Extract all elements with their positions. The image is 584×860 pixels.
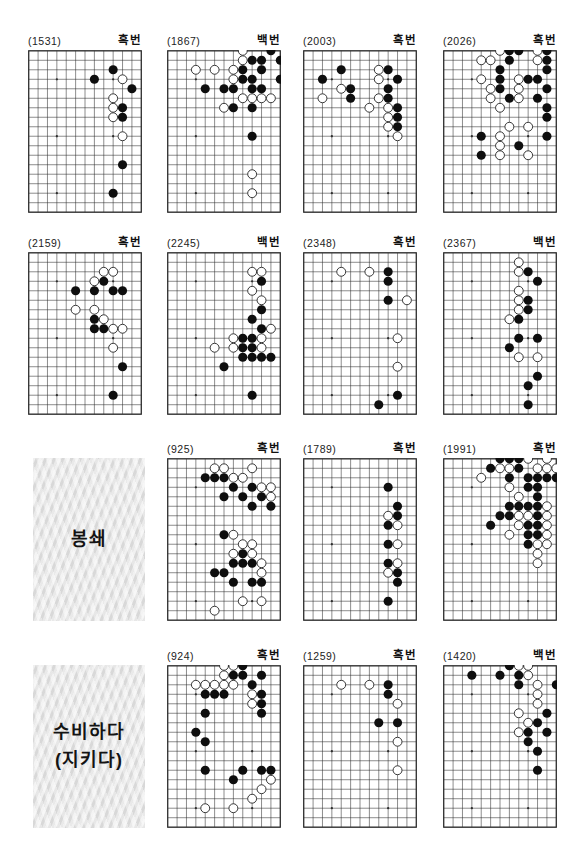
diagram-number: (1531) — [28, 35, 61, 47]
white-stone — [365, 103, 374, 112]
black-stone — [257, 766, 266, 775]
black-stone — [542, 473, 551, 482]
black-stone — [238, 353, 247, 362]
diagram-caption: (925)흑번 — [167, 439, 281, 455]
white-stone — [201, 804, 210, 813]
black-stone — [495, 671, 504, 680]
go-board-grid — [167, 665, 281, 828]
section-label-box: 봉쇄 — [33, 458, 145, 621]
black-stone — [533, 334, 542, 343]
go-board-grid — [303, 665, 417, 828]
diagram-2367: (2367)백번 — [443, 252, 557, 415]
white-stone — [90, 305, 99, 314]
white-stone — [402, 296, 411, 305]
white-stone — [533, 56, 542, 65]
white-stone — [248, 189, 257, 198]
black-stone — [524, 521, 533, 530]
black-stone — [514, 50, 523, 55]
white-stone — [365, 267, 374, 276]
diagram-1420: (1420)백번 — [443, 665, 557, 828]
black-stone — [201, 690, 210, 699]
black-stone — [109, 189, 118, 198]
white-stone — [514, 353, 523, 362]
white-stone — [257, 568, 266, 577]
black-stone — [71, 286, 80, 295]
diagram-caption: (1789)흑번 — [303, 439, 417, 455]
white-stone — [542, 530, 551, 539]
white-stone — [229, 804, 238, 813]
white-stone — [533, 540, 542, 549]
section-label-text: (지키다) — [55, 747, 123, 775]
white-stone — [514, 94, 523, 103]
black-stone — [99, 277, 108, 286]
black-stone — [248, 353, 257, 362]
diagram-number: (1867) — [167, 35, 200, 47]
black-stone — [90, 286, 99, 295]
black-stone — [238, 766, 247, 775]
white-stone — [220, 680, 229, 689]
white-stone — [210, 680, 219, 689]
black-stone — [533, 511, 542, 520]
turn-label: 흑번 — [393, 233, 417, 249]
diagram-number: (2348) — [303, 237, 336, 249]
white-stone — [248, 690, 257, 699]
go-board — [167, 50, 281, 213]
turn-label: 흑번 — [533, 439, 557, 455]
turn-label: 백번 — [533, 233, 557, 249]
white-stone — [238, 94, 247, 103]
black-stone — [238, 343, 247, 352]
white-stone — [384, 568, 393, 577]
black-stone — [384, 597, 393, 606]
white-stone — [118, 132, 127, 141]
black-stone — [393, 578, 402, 587]
white-stone — [257, 597, 266, 606]
go-board-grid — [167, 50, 281, 213]
diagram-number: (2026) — [443, 35, 476, 47]
white-stone — [337, 84, 346, 93]
white-stone — [257, 559, 266, 568]
go-board — [443, 458, 557, 621]
white-stone — [374, 94, 383, 103]
section-label-text: 수비하다 — [53, 719, 125, 747]
black-stone — [248, 483, 257, 492]
black-stone — [524, 483, 533, 492]
go-board-grid — [303, 252, 417, 415]
go-board — [167, 252, 281, 415]
white-stone — [210, 464, 219, 473]
black-stone — [505, 473, 514, 482]
white-stone — [393, 334, 402, 343]
white-stone — [384, 511, 393, 520]
white-stone — [486, 56, 495, 65]
white-stone — [248, 286, 257, 295]
black-stone — [533, 718, 542, 727]
black-stone — [505, 56, 514, 65]
white-stone — [374, 65, 383, 74]
white-stone — [266, 775, 275, 784]
black-stone — [118, 362, 127, 371]
white-stone — [542, 458, 551, 463]
white-stone — [533, 50, 542, 55]
black-stone — [542, 65, 551, 74]
white-stone — [533, 559, 542, 568]
white-stone — [99, 267, 108, 276]
black-stone — [238, 334, 247, 343]
black-stone — [229, 103, 238, 112]
black-stone — [109, 286, 118, 295]
black-stone — [393, 75, 402, 84]
diagram-number: (2159) — [28, 237, 61, 249]
black-stone — [238, 559, 247, 568]
white-stone — [257, 296, 266, 305]
diagram-2245: (2245)백번 — [167, 252, 281, 415]
white-stone — [229, 665, 238, 670]
black-stone — [542, 50, 551, 55]
go-board — [303, 665, 417, 828]
white-stone — [477, 56, 486, 65]
white-stone — [393, 521, 402, 530]
black-stone — [393, 502, 402, 511]
black-stone — [201, 473, 210, 482]
white-stone — [496, 464, 505, 473]
go-board-grid — [443, 252, 557, 415]
black-stone — [495, 511, 504, 520]
black-stone — [393, 511, 402, 520]
black-stone — [384, 277, 393, 286]
